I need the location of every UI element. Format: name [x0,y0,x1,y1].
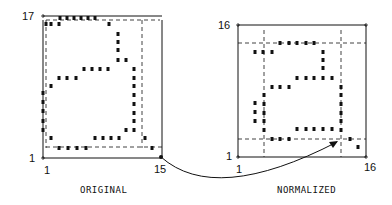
pixel-dot [144,136,147,140]
pixel-dot [75,76,78,80]
pixel-dot [58,146,61,150]
pixel-dot [340,102,343,106]
pixel-dot [66,16,69,20]
mapping-arrow [159,141,338,178]
pixel-dot [322,50,325,54]
pixel-dot [133,93,136,97]
pixel-dot [254,50,257,54]
pixel-dot [125,58,128,62]
pixel-dot [59,16,62,20]
pixel-dot [271,85,274,89]
original-dots [42,16,154,150]
pixel-dot [262,50,265,54]
pixel-dot [296,76,299,80]
normalized-y-top-label: 16 [218,20,230,31]
pixel-dot [133,102,136,106]
pixel-dot [50,84,53,88]
pixel-dot [322,127,325,131]
pixel-dot [91,67,94,71]
pixel-dot [42,100,45,104]
pixel-dot [58,22,61,26]
pixel-dot [50,22,53,26]
pixel-dot [254,101,257,105]
pixel-dot [151,146,154,150]
pixel-dot [117,40,120,44]
pixel-dot [331,127,334,131]
pixel-dot [331,76,334,80]
pixel-dot [50,136,53,140]
pixel-dot [322,58,325,62]
pixel-dot [133,84,136,88]
pixel-dot [133,76,136,80]
pixel-dot [58,76,61,80]
pixel-dot [271,50,274,54]
pixel-dot [108,22,111,26]
pixel-dot [340,85,343,89]
pixel-dot [340,119,343,123]
pixel-dot [99,67,102,71]
normalized-x-right-label: 16 [364,162,376,173]
original-caption: ORIGINAL [80,186,127,195]
pixel-dot [94,136,97,140]
pixel-dot [305,76,308,80]
pixel-dot [322,66,325,70]
pixel-dot [279,41,282,45]
pixel-dot [288,41,291,45]
pixel-dot [357,145,360,149]
pixel-dot [288,85,291,89]
pixel-dot [279,137,282,141]
pixel-dot [94,16,97,20]
pixel-dot [73,16,76,20]
pixel-dot [263,119,266,123]
pixel-dot [322,76,325,80]
pixel-dot [67,146,70,150]
pixel-dot [85,146,88,150]
pixel-dot [263,93,266,97]
original-x-left-label: 1 [44,165,50,176]
pixel-dot [340,111,343,115]
pixel-dot [313,41,316,45]
pixel-dot [313,76,316,80]
pixel-dot [254,119,257,123]
pixel-dot [254,110,257,114]
pixel-dot [133,128,136,132]
pixel-dot [271,137,274,141]
pixel-dot [349,137,352,141]
pixel-dot [107,67,110,71]
normalized-y-bottom-label: 1 [226,151,232,162]
normalized-caption: NORMALIZED [277,186,336,195]
original-y-top-label: 17 [22,11,34,22]
pixel-dot [102,136,105,140]
pixel-dot [42,91,45,95]
pixel-dot [76,146,79,150]
pixel-dot [340,128,343,132]
corner-ticks [41,14,368,160]
pixel-dot [117,32,120,36]
pixel-dot [83,67,86,71]
pixel-dot [133,67,136,71]
pixel-dot [263,102,266,106]
pixel-dot [45,22,48,26]
pixel-dot [110,136,113,140]
pixel-dot [80,16,83,20]
pixel-dot [296,41,299,45]
pixel-dot [42,128,45,132]
normalized-panel [238,25,366,157]
normalized-x-left-label: 1 [236,164,242,175]
pixel-dot [340,93,343,97]
pixel-dot [117,48,120,52]
pixel-dot [288,137,291,141]
pixel-dot [133,111,136,115]
pixel-dot [263,111,266,115]
pixel-dot [279,85,282,89]
pixel-dot [117,58,120,62]
pixel-dot [87,16,90,20]
original-y-bottom-label: 1 [29,153,35,164]
pixel-dot [133,119,136,123]
normalized-dots [254,41,360,149]
pixel-dot [305,127,308,131]
pixel-dot [305,41,308,45]
pixel-dot [118,136,121,140]
diagram-canvas [0,0,392,205]
original-x-right-label: 15 [154,164,166,175]
